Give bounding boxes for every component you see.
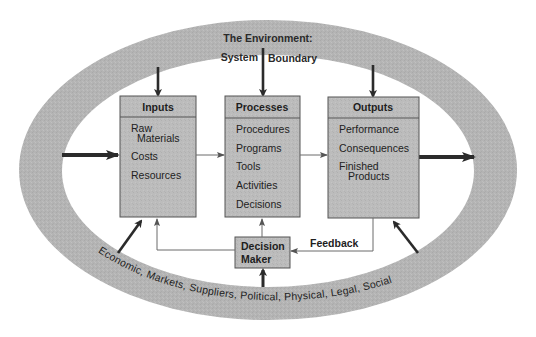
outputs-item-performance: Performance bbox=[339, 123, 399, 135]
processes-header: Processes bbox=[236, 101, 289, 113]
inputs-item-resources: Resources bbox=[131, 169, 181, 181]
decision-maker-box: Decision Maker bbox=[235, 237, 290, 268]
system-label: System bbox=[221, 51, 258, 63]
decision-maker-line1: Decision bbox=[241, 240, 285, 252]
inputs-header: Inputs bbox=[142, 101, 174, 113]
input-process-output-diagram: The Environment: System Boundary Inputs … bbox=[0, 0, 536, 337]
inputs-item-costs: Costs bbox=[131, 150, 158, 162]
outputs-item-consequences: Consequences bbox=[339, 142, 409, 154]
processes-item-tools: Tools bbox=[236, 160, 261, 172]
processes-item-procedures: Procedures bbox=[236, 123, 290, 135]
processes-box: Processes Procedures Programs Tools Acti… bbox=[225, 96, 300, 217]
env-to-inputs-diagonal-arrow bbox=[118, 221, 141, 253]
environment-title: The Environment: bbox=[223, 32, 312, 44]
boundary-label: Boundary bbox=[268, 52, 317, 64]
inputs-box: Inputs Raw Materials Costs Resources bbox=[120, 96, 196, 217]
outputs-header: Outputs bbox=[353, 101, 393, 113]
processes-item-decisions: Decisions bbox=[236, 198, 282, 210]
processes-item-activities: Activities bbox=[236, 179, 277, 191]
processes-item-programs: Programs bbox=[236, 142, 282, 154]
env-to-outputs-diagonal-arrow bbox=[394, 222, 418, 253]
outputs-item-products: Products bbox=[348, 170, 389, 182]
inputs-item-materials: Materials bbox=[137, 132, 180, 144]
decision-maker-line2: Maker bbox=[241, 253, 271, 265]
decision-to-inputs-line bbox=[157, 219, 235, 250]
outputs-box: Outputs Performance Consequences Finishe… bbox=[328, 97, 419, 218]
feedback-label: Feedback bbox=[310, 237, 359, 249]
